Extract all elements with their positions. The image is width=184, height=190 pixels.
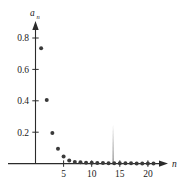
y-tick-label: 0.2 [17,128,29,138]
data-point [78,160,82,164]
x-axis-label: n [172,159,177,169]
y-tick-label-group: 0.20.40.60.8 [17,33,29,137]
data-point [62,155,66,159]
x-tick-label: 20 [143,169,153,179]
data-point [146,161,150,165]
x-tick-label-group: 5101520 [61,169,153,179]
data-point [152,161,156,165]
data-point [90,161,94,165]
data-point [118,161,122,165]
data-point [39,46,43,50]
x-axis-arrow-icon [159,160,168,166]
y-tick-label: 0.6 [17,65,29,75]
x-tick-label: 15 [115,169,125,179]
data-point [56,147,60,151]
data-point [45,98,49,102]
plot-area: 0.20.40.60.8 5101520 a n n [0,0,184,190]
y-axis-arrow-icon [32,21,38,30]
vertical-artifact-line [112,124,114,163]
data-point [84,161,88,165]
data-point [135,161,139,165]
data-point [73,160,77,164]
data-point [112,161,116,165]
x-tick-label: 10 [87,169,97,179]
sequence-scatter-chart: 0.20.40.60.8 5101520 a n n [0,0,184,190]
y-axis-label-subscript: n [37,13,40,20]
data-point [107,161,111,165]
x-tick-label: 5 [61,169,66,179]
y-tick-label: 0.8 [17,33,29,43]
data-point [129,161,133,165]
data-point [95,161,99,165]
data-point [123,161,127,165]
data-point [50,131,54,135]
data-point [67,158,71,162]
data-point-group [39,46,155,165]
data-point [101,161,105,165]
y-axis-label: a [30,8,35,18]
data-point [140,161,144,165]
y-tick-label: 0.4 [17,96,29,106]
